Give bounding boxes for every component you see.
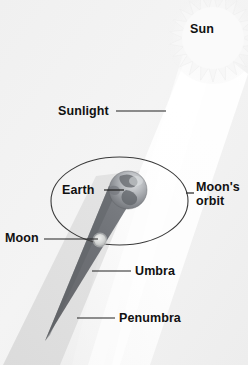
label-earth: Earth bbox=[62, 183, 94, 197]
label-moons-orbit: Moon's orbit bbox=[196, 180, 246, 208]
earth-highlight bbox=[129, 176, 143, 186]
label-umbra: Umbra bbox=[135, 264, 175, 278]
moon-sphere bbox=[94, 234, 106, 246]
moon-object bbox=[93, 233, 108, 248]
label-penumbra: Penumbra bbox=[119, 311, 181, 325]
lunar-eclipse-diagram: Sun Sunlight Earth Moon Umbra Penumbra M… bbox=[0, 0, 248, 365]
label-sun: Sun bbox=[190, 22, 214, 36]
sun-disc bbox=[182, 7, 244, 69]
label-moon: Moon bbox=[5, 231, 39, 245]
label-sunlight: Sunlight bbox=[58, 104, 109, 118]
